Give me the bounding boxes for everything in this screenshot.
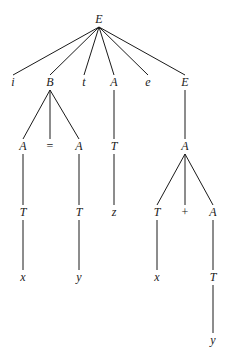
tree-node: + [182,205,189,219]
tree-edge [185,154,213,205]
tree-node: x [19,270,26,284]
tree-node: A [109,75,118,89]
tree-node: y [75,270,82,284]
tree-node: T [111,139,119,153]
tree-node: B [46,75,54,89]
tree-node: e [145,75,151,89]
tree-node: T [154,205,162,219]
tree-node: z [111,205,117,219]
tree-node: A [208,205,217,219]
tree-node: T [210,270,218,284]
tree-node: E [180,75,189,89]
tree-edge [23,90,50,139]
tree-node: A [180,139,189,153]
tree-node: = [47,139,54,153]
tree-node: t [82,75,86,89]
tree-node: T [20,205,28,219]
tree-node: y [209,333,216,347]
tree-node: T [76,205,84,219]
tree-edges [13,27,213,333]
tree-node: x [153,270,160,284]
tree-edge [157,154,185,205]
tree-edge [50,90,79,139]
tree-node: i [11,75,14,89]
tree-node: A [74,139,83,153]
tree-node: A [18,139,27,153]
parse-tree-diagram: EiBtAeEA=ATATTzT+AxyxTy [0,0,228,351]
tree-node: E [94,12,103,26]
